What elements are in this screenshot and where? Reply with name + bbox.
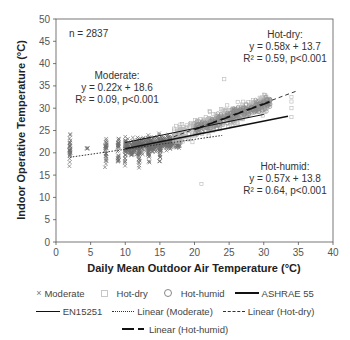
- square-marker-icon: [101, 290, 108, 297]
- legend-label: Linear (Hot-dry): [248, 306, 315, 317]
- legend-item-moderate: × Moderate: [36, 288, 84, 299]
- legend-label: Hot-dry: [117, 288, 148, 299]
- svg-text:R² = 0.64, p<0.001: R² = 0.64, p<0.001: [243, 185, 327, 196]
- svg-text:R² = 0.09, p<0.001: R² = 0.09, p<0.001: [75, 94, 159, 105]
- circle-marker-icon: [164, 289, 172, 297]
- svg-text:30: 30: [258, 247, 270, 258]
- svg-text:45: 45: [39, 36, 51, 47]
- svg-text:y = 0.58x + 13.7: y = 0.58x + 13.7: [249, 41, 321, 52]
- legend-item-linear-hot-humid: Linear (Hot-humid): [122, 324, 228, 335]
- sample-size-label: n = 2837: [69, 28, 109, 39]
- moderate-annotation: Moderate: y = 0.22x + 18.6 R² = 0.09, p<…: [75, 70, 159, 105]
- svg-text:40: 40: [327, 247, 339, 258]
- svg-text:y = 0.57x + 13.8: y = 0.57x + 13.8: [249, 173, 321, 184]
- svg-text:50: 50: [39, 14, 51, 25]
- svg-text:15: 15: [154, 247, 166, 258]
- legend-label: Moderate: [44, 288, 84, 299]
- svg-text:35: 35: [293, 247, 305, 258]
- svg-text:10: 10: [39, 192, 51, 203]
- legend-label: ASHRAE 55: [262, 288, 314, 299]
- hot-humid-annotation: Hot-humid: y = 0.57x + 13.8 R² = 0.64, p…: [243, 161, 327, 196]
- x-axis-ticks: 0510152025303540: [53, 242, 339, 258]
- svg-text:5: 5: [44, 214, 50, 225]
- legend-item-en15251: EN15251: [36, 306, 103, 317]
- legend-item-linear-hot-dry: Linear (Hot-dry): [223, 306, 315, 317]
- legend-label: Linear (Hot-humid): [149, 324, 228, 335]
- dashed-line-icon: [223, 311, 245, 312]
- legend-label: Linear (Moderate): [137, 306, 213, 317]
- long-dash-line-icon: [122, 327, 146, 331]
- svg-text:y = 0.22x + 18.6: y = 0.22x + 18.6: [81, 82, 153, 93]
- legend-label: EN15251: [63, 306, 103, 317]
- svg-text:10: 10: [120, 247, 132, 258]
- svg-text:20: 20: [189, 247, 201, 258]
- svg-text:35: 35: [39, 80, 51, 91]
- legend-item-linear-moderate: Linear (Moderate): [112, 306, 213, 317]
- legend-label: Hot-humid: [181, 288, 225, 299]
- svg-text:R² = 0.59, p<0.001: R² = 0.59, p<0.001: [243, 53, 327, 64]
- x-marker-icon: ×: [36, 288, 41, 298]
- svg-text:Hot-dry:: Hot-dry:: [267, 29, 303, 40]
- y-axis-label: Indoor Operative Temperature (°C): [15, 40, 27, 220]
- legend-item-ashrae: ASHRAE 55: [235, 288, 314, 299]
- thick-line-icon: [235, 292, 259, 294]
- svg-text:30: 30: [39, 103, 51, 114]
- svg-text:40: 40: [39, 58, 51, 69]
- svg-text:15: 15: [39, 170, 51, 181]
- y-axis-ticks: 05101520253035404550: [39, 14, 56, 248]
- svg-text:0: 0: [44, 237, 50, 248]
- svg-text:20: 20: [39, 147, 51, 158]
- svg-text:Moderate:: Moderate:: [94, 70, 139, 81]
- line-icon: [36, 311, 60, 312]
- svg-text:Hot-humid:: Hot-humid:: [261, 161, 310, 172]
- svg-text:5: 5: [88, 247, 94, 258]
- x-axis-label: Daily Mean Outdoor Air Temperature (°C): [87, 262, 301, 274]
- svg-text:25: 25: [39, 125, 51, 136]
- svg-text:0: 0: [53, 247, 59, 258]
- hot-dry-annotation: Hot-dry: y = 0.58x + 13.7 R² = 0.59, p<0…: [243, 29, 327, 64]
- legend-item-hot-humid: Hot-humid: [158, 288, 225, 299]
- chart-legend: × Moderate Hot-dry Hot-humid ASHRAE 55 E…: [0, 284, 350, 338]
- svg-text:25: 25: [224, 247, 236, 258]
- legend-item-hot-dry: Hot-dry: [95, 288, 148, 299]
- dotted-line-icon: [112, 311, 134, 312]
